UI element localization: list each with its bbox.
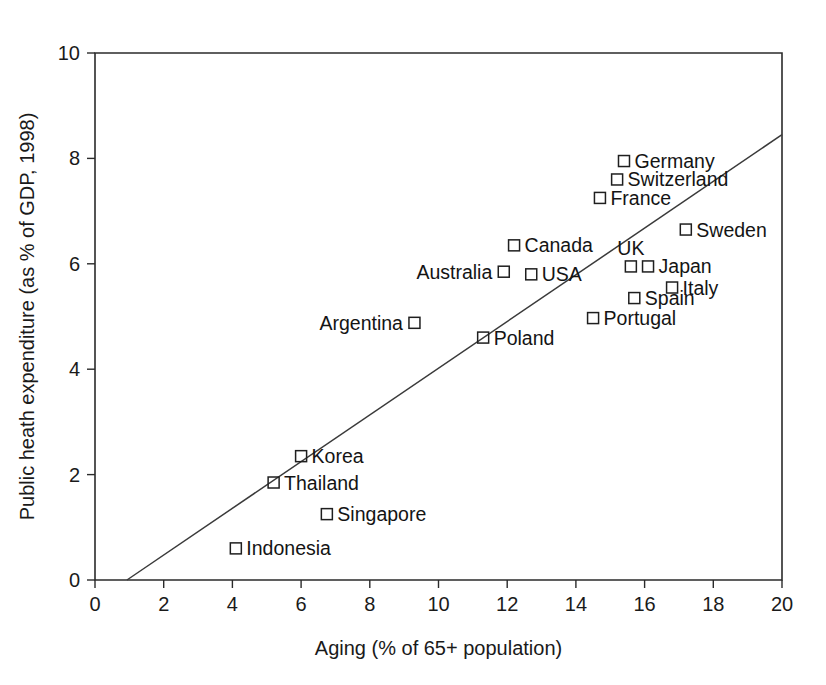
x-tick-label: 2	[158, 593, 169, 615]
point-marker-square-icon	[526, 269, 537, 280]
x-tick-label: 4	[227, 593, 238, 615]
data-point[interactable]: Canada	[509, 234, 593, 256]
x-tick-label: 20	[771, 593, 793, 615]
data-point[interactable]: Argentina	[319, 312, 419, 334]
point-label: Poland	[494, 327, 555, 349]
y-tick-label: 10	[58, 42, 80, 64]
point-label: Singapore	[337, 503, 426, 525]
point-label: Sweden	[696, 219, 766, 241]
plot-border	[95, 53, 782, 580]
point-label: Portugal	[604, 307, 677, 329]
point-marker-square-icon	[612, 174, 623, 185]
plot-frame	[95, 53, 782, 580]
point-marker-square-icon	[509, 240, 520, 251]
x-tick-label: 0	[89, 593, 100, 615]
data-point[interactable]: Australia	[416, 261, 509, 283]
data-points: GermanySwitzerlandFranceSwedenCanadaUKJa…	[230, 150, 766, 559]
point-marker-square-icon	[629, 293, 640, 304]
data-point[interactable]: Korea	[296, 445, 364, 467]
x-tick-label: 12	[496, 593, 518, 615]
point-label: Thailand	[284, 472, 359, 494]
x-tick-label: 18	[702, 593, 724, 615]
y-tick-label: 2	[69, 464, 80, 486]
data-point[interactable]: Poland	[478, 327, 555, 349]
point-label: USA	[542, 263, 582, 285]
y-axis-title: Public heath expenditure (as % of GDP, 1…	[16, 113, 38, 521]
regression-line	[127, 135, 782, 580]
data-point[interactable]: USA	[526, 263, 582, 285]
point-marker-square-icon	[594, 192, 605, 203]
point-marker-square-icon	[409, 317, 420, 328]
x-axis-title: Aging (% of 65+ population)	[315, 637, 562, 659]
point-marker-square-icon	[296, 451, 307, 462]
data-point[interactable]: UK	[617, 237, 644, 272]
point-label: UK	[617, 237, 644, 259]
point-marker-square-icon	[498, 266, 509, 277]
data-point[interactable]: Singapore	[321, 503, 426, 525]
point-label: Korea	[312, 445, 364, 467]
point-marker-square-icon	[230, 543, 241, 554]
y-tick-label: 4	[69, 358, 80, 380]
axis-tick-labels: 024681012141618200246810	[58, 42, 793, 615]
point-marker-square-icon	[588, 313, 599, 324]
point-marker-square-icon	[625, 261, 636, 272]
data-point[interactable]: Sweden	[680, 219, 766, 241]
x-tick-label: 14	[565, 593, 587, 615]
point-label: Argentina	[319, 312, 403, 334]
point-label: Indonesia	[246, 537, 331, 559]
x-tick-label: 6	[296, 593, 307, 615]
axis-ticks	[87, 53, 782, 588]
point-marker-square-icon	[321, 509, 332, 520]
y-tick-label: 0	[69, 569, 80, 591]
plot-canvas: 024681012141618200246810 GermanySwitzerl…	[0, 0, 826, 685]
point-label: Australia	[416, 261, 492, 283]
point-marker-square-icon	[680, 224, 691, 235]
point-label: Canada	[525, 234, 593, 256]
scatter-chart-figure: 024681012141618200246810 GermanySwitzerl…	[0, 0, 826, 685]
data-point[interactable]: France	[594, 187, 671, 209]
data-point[interactable]: Japan	[643, 255, 712, 277]
x-tick-label: 10	[427, 593, 449, 615]
point-label: Japan	[659, 255, 712, 277]
point-label: Spain	[645, 287, 695, 309]
data-point[interactable]: Indonesia	[230, 537, 331, 559]
trend-line	[127, 135, 782, 580]
data-point[interactable]: Spain	[629, 287, 695, 309]
data-point[interactable]: Portugal	[588, 307, 677, 329]
point-marker-square-icon	[643, 261, 654, 272]
x-tick-label: 16	[633, 593, 655, 615]
y-tick-label: 6	[69, 253, 80, 275]
y-tick-label: 8	[69, 147, 80, 169]
point-marker-square-icon	[618, 156, 629, 167]
point-label: France	[610, 187, 671, 209]
x-tick-label: 8	[364, 593, 375, 615]
axis-titles: Aging (% of 65+ population)Public heath …	[16, 113, 562, 659]
